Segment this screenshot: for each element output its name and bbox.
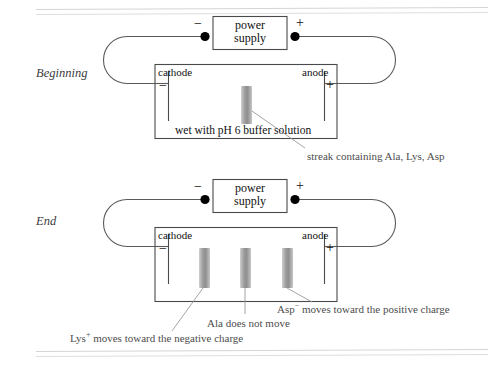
cathode-sign-beginning: − xyxy=(159,78,167,94)
electrophoresis-figure: Beginning power supply − + cathode − ano… xyxy=(0,0,494,365)
power-negative-sign-beginning: − xyxy=(194,16,202,32)
top-rules xyxy=(36,8,488,15)
anode-sign-beginning: + xyxy=(326,77,334,93)
positive-terminal-dot-end xyxy=(290,195,299,204)
power-supply-label-end: power supply xyxy=(213,182,287,209)
power-positive-sign-beginning: + xyxy=(296,15,304,31)
cathode-label-end: cathode xyxy=(158,229,192,241)
stage-label-beginning: Beginning xyxy=(36,66,87,81)
stage-label-end: End xyxy=(36,214,56,229)
lys-rest: moves toward the negative charge xyxy=(90,332,243,344)
negative-terminal-dot-end xyxy=(200,195,209,204)
asp-band xyxy=(282,248,293,288)
streak-band-beginning xyxy=(241,86,252,124)
asp-rest: moves toward the positive charge xyxy=(299,303,449,315)
power-supply-line2-end: supply xyxy=(213,195,287,208)
power-supply-label-beginning: power supply xyxy=(213,19,287,46)
annotation-lys: Lys+ moves toward the negative charge xyxy=(70,332,243,344)
power-negative-sign-end: − xyxy=(194,179,202,195)
positive-terminal-dot-beginning xyxy=(290,32,299,41)
annotation-streak: streak containing Ala, Lys, Asp xyxy=(307,150,444,162)
anode-label-beginning: anode xyxy=(302,66,328,78)
bottom-rules xyxy=(36,350,488,357)
buffer-label-beginning: wet with pH 6 buffer solution xyxy=(175,124,311,136)
anode-sign-end: + xyxy=(326,240,334,256)
cathode-sign-end: − xyxy=(159,241,167,257)
asp-prefix: Asp xyxy=(277,303,295,315)
power-supply-line2: supply xyxy=(213,32,287,45)
power-supply-line1-end: power xyxy=(213,182,287,195)
ala-band xyxy=(240,248,251,288)
negative-terminal-dot-beginning xyxy=(200,32,209,41)
lys-prefix: Lys xyxy=(70,332,86,344)
anode-label-end: anode xyxy=(302,229,328,241)
power-supply-line1: power xyxy=(213,19,287,32)
annotation-ala: Ala does not move xyxy=(207,317,290,329)
cathode-label-beginning: cathode xyxy=(158,66,192,78)
lys-band xyxy=(199,248,210,288)
power-positive-sign-end: + xyxy=(296,178,304,194)
annotation-asp: Asp− moves toward the positive charge xyxy=(277,303,450,315)
